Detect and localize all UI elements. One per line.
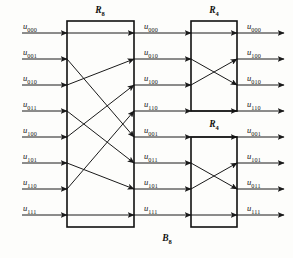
middle-label-7: u111	[144, 204, 157, 215]
output-label-6: u011	[247, 178, 261, 189]
r4-top-block-label: R4	[209, 6, 219, 17]
output-label-2: u010	[247, 74, 261, 85]
middle-label-2: u100	[144, 74, 158, 85]
middle-label-6: u101	[144, 178, 158, 189]
b8-network-diagram: u000u001u010u011u100u101u110u111u000u010…	[0, 0, 293, 258]
r4-top-block-outline	[191, 21, 237, 111]
r8-route-6-to-3	[67, 111, 134, 189]
middle-label-4: u001	[144, 126, 158, 137]
r8-route-3-to-5	[67, 111, 134, 163]
output-label-7: u111	[247, 204, 260, 215]
middle-label-5: u011	[144, 152, 158, 163]
r4-bottom-block-label: R4	[209, 120, 219, 131]
output-label-4: u001	[247, 126, 261, 137]
r8-route-2-to-1	[67, 59, 134, 85]
r4-bottom-block-outline	[191, 137, 237, 227]
middle-label-3: u110	[144, 100, 158, 111]
input-label-4: u100	[23, 126, 37, 137]
output-label-3: u110	[247, 100, 261, 111]
r8-route-5-to-6	[67, 163, 134, 189]
output-label-0: u000	[247, 22, 261, 33]
middle-label-0: u000	[144, 22, 158, 33]
input-label-5: u101	[23, 152, 37, 163]
r8-block-label: R8	[95, 6, 105, 17]
b8-network-label: B8	[162, 234, 172, 245]
input-label-7: u111	[23, 204, 36, 215]
r8-route-1-to-4	[67, 59, 134, 137]
output-label-1: u100	[247, 48, 261, 59]
input-label-2: u010	[23, 74, 37, 85]
input-label-3: u011	[23, 100, 37, 111]
output-label-5: u101	[247, 152, 261, 163]
input-label-1: u001	[23, 48, 37, 59]
input-label-0: u000	[23, 22, 37, 33]
r8-block-outline	[67, 21, 134, 227]
input-label-6: u110	[23, 178, 37, 189]
middle-label-1: u010	[144, 48, 158, 59]
r8-route-4-to-2	[67, 85, 134, 137]
